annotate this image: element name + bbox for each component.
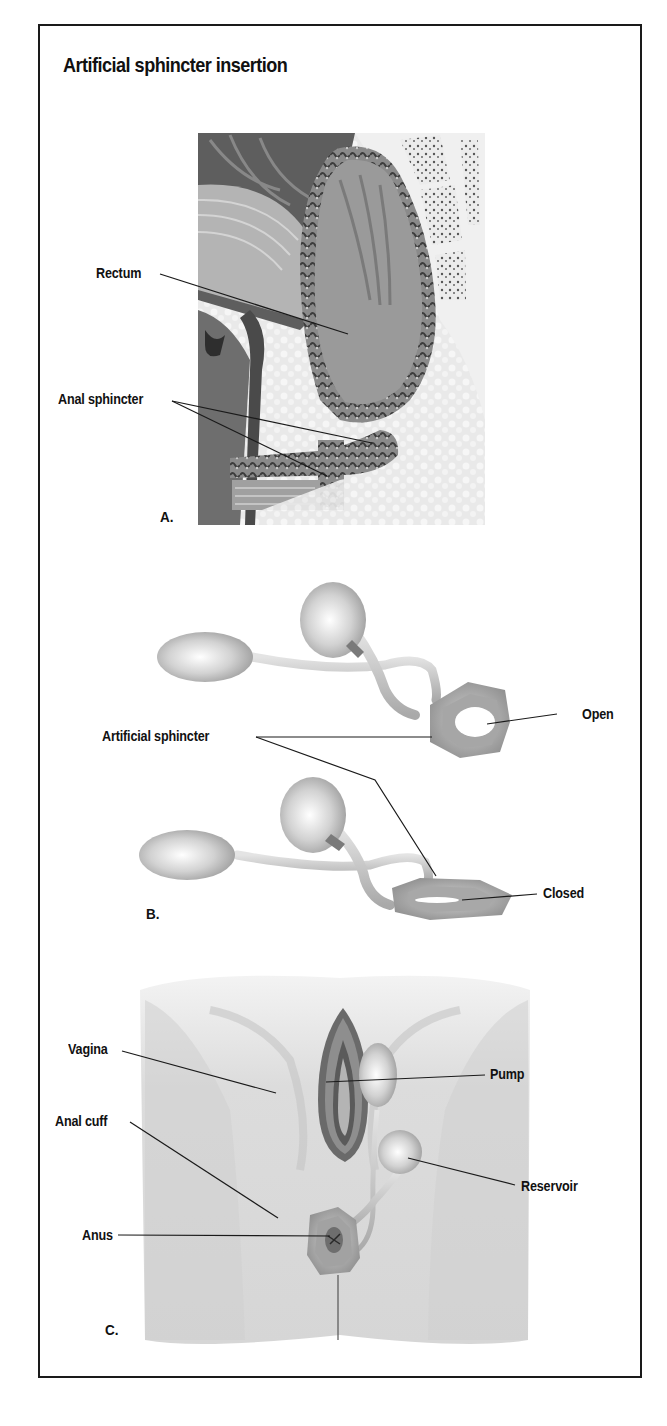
panel-letter-a: A. xyxy=(160,508,174,525)
label-vagina: Vagina xyxy=(68,1040,108,1057)
label-anal-cuff: Anal cuff xyxy=(55,1112,107,1129)
label-reservoir: Reservoir xyxy=(521,1177,578,1194)
label-rectum: Rectum xyxy=(96,264,141,281)
panel-c-illustration xyxy=(140,976,530,1344)
label-anal-sphincter: Anal sphincter xyxy=(58,390,143,407)
label-anus: Anus xyxy=(82,1226,113,1243)
panel-a-illustration xyxy=(198,133,485,525)
label-pump: Pump xyxy=(490,1065,524,1082)
label-artificial-sphincter: Artificial sphincter xyxy=(102,727,209,744)
panel-letter-c: C. xyxy=(105,1321,119,1338)
panel-letter-b: B. xyxy=(146,905,160,922)
label-closed: Closed xyxy=(543,884,584,901)
panel-b-illustration xyxy=(139,582,512,920)
label-open: Open xyxy=(582,705,614,722)
diagram-artwork xyxy=(0,0,667,1426)
